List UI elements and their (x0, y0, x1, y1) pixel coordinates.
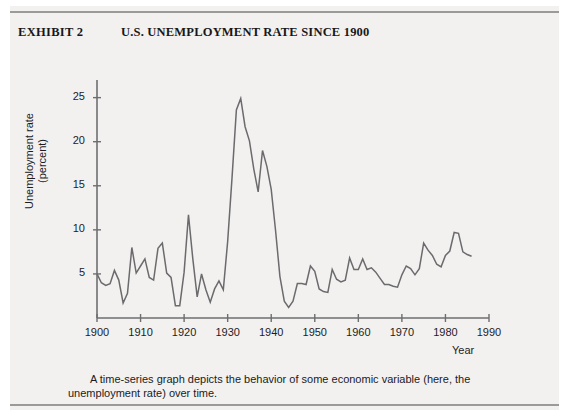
unemployment-rate-line (97, 99, 472, 308)
figure-caption: A time-series graph depicts the behavior… (68, 372, 508, 400)
y-axis-title-line1: Unemployment rate (23, 101, 36, 221)
x-tick-label: 1930 (206, 326, 250, 338)
x-tick-label: 1970 (380, 326, 424, 338)
caption-line-1: A time-series graph depicts the behavior… (68, 373, 470, 385)
x-tick-label: 1990 (467, 326, 511, 338)
x-tick-label: 1980 (423, 326, 467, 338)
exhibit-page: EXHIBIT 2 U.S. UNEMPLOYMENT RATE SINCE 1… (0, 0, 569, 418)
unemployment-line-chart (0, 0, 569, 418)
chart-container: Unemployment rate (percent) 510152025 19… (0, 0, 569, 418)
y-tick-label: 5 (59, 266, 85, 278)
x-tick-label: 1920 (162, 326, 206, 338)
y-tick-label: 20 (59, 134, 85, 146)
y-tick-label: 25 (59, 90, 85, 102)
x-tick-label: 1950 (293, 326, 337, 338)
chart-axes (97, 80, 489, 318)
x-tick-label: 1940 (249, 326, 293, 338)
caption-line-2: unemployment rate) over time. (68, 387, 217, 399)
x-axis-title: Year (452, 344, 474, 356)
y-axis-title-line2: (percent) (36, 101, 49, 221)
x-tick-label: 1900 (75, 326, 119, 338)
y-tick-label: 15 (59, 178, 85, 190)
x-tick-label: 1910 (119, 326, 163, 338)
data-series-group (97, 99, 472, 308)
y-axis-title: Unemployment rate (percent) (23, 101, 49, 221)
y-tick-label: 10 (59, 222, 85, 234)
x-tick-label: 1960 (336, 326, 380, 338)
